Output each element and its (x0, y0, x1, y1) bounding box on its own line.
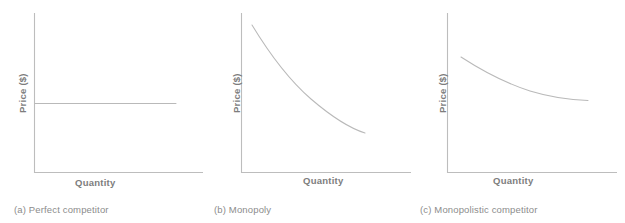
demand-curve-monopolistic (461, 57, 588, 101)
panel-monopolistic-competitor: Quantity Price ($) (c) Monopolistic comp… (413, 0, 621, 223)
y-axis-label: Price ($) (17, 73, 28, 113)
demand-curve-monopoly (252, 25, 365, 133)
panel-caption: (a) Perfect competitor (14, 204, 109, 215)
y-axis-label: Price ($) (231, 73, 242, 113)
panel-monopoly: Quantity Price ($) (b) Monopoly (207, 0, 415, 223)
plot-area-perfect-competitor (0, 0, 208, 223)
x-axis-label: Quantity (75, 177, 116, 188)
panel-perfect-competitor: Quantity Price ($) (a) Perfect competito… (0, 0, 208, 223)
axes-lines (35, 13, 204, 173)
panel-caption: (b) Monopoly (214, 204, 271, 215)
figure-container: Quantity Price ($) (a) Perfect competito… (0, 0, 625, 223)
axes-lines (242, 13, 412, 173)
panel-caption: (c) Monopolistic competitor (420, 204, 538, 215)
y-axis-label: Price ($) (437, 73, 448, 113)
x-axis-label: Quantity (303, 175, 344, 186)
axes-lines (448, 13, 618, 173)
x-axis-label: Quantity (493, 175, 534, 186)
